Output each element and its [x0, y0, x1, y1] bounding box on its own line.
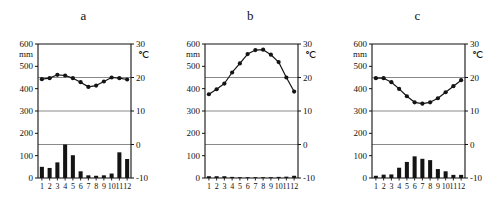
right-axis-unit: ℃ — [305, 50, 316, 60]
month-label: 12 — [457, 182, 465, 190]
plot-area-a: 6005004003002001000mm3020100-10℃12345678… — [0, 40, 167, 190]
precipitation-bar — [374, 176, 378, 178]
temperature-point — [292, 89, 296, 93]
month-label: 1 — [374, 182, 378, 190]
climograph-svg-b: 6005004003002001000mm3020100-10℃12345678… — [167, 40, 334, 190]
temperature-point — [436, 96, 440, 100]
precipitation-bar — [420, 159, 424, 178]
temperature-point — [230, 70, 234, 74]
left-tick-label: 200 — [354, 128, 368, 138]
month-label: 10 — [275, 182, 283, 190]
right-tick-label: 30 — [470, 40, 480, 49]
precipitation-bar — [292, 176, 296, 178]
month-label: 7 — [420, 182, 424, 190]
temperature-point — [459, 78, 463, 82]
left-tick-label: 200 — [20, 128, 34, 138]
climograph-svg-a: 6005004003002001000mm3020100-10℃12345678… — [0, 40, 167, 190]
climate-charts-figure: a6005004003002001000mm3020100-10℃1234567… — [0, 0, 501, 212]
temperature-point — [444, 90, 448, 94]
month-label: 4 — [230, 182, 234, 190]
temperature-point — [277, 60, 281, 64]
temperature-point — [253, 48, 257, 52]
precipitation-bar — [102, 175, 106, 178]
right-tick-label: -10 — [136, 173, 148, 183]
precipitation-bar — [207, 176, 211, 178]
left-tick-label: 0 — [29, 173, 34, 183]
precipitation-bar — [94, 176, 98, 178]
month-label: 11 — [116, 182, 124, 190]
month-label: 7 — [253, 182, 257, 190]
precipitation-bar — [436, 169, 440, 178]
month-label: 12 — [290, 182, 298, 190]
chart-panel-c: c6005004003002001000mm3020100-10℃1234567… — [334, 0, 501, 212]
month-label: 9 — [102, 182, 106, 190]
temperature-point — [269, 53, 273, 57]
month-label: 5 — [238, 182, 242, 190]
temperature-point — [246, 52, 250, 56]
left-axis-unit: mm — [19, 49, 33, 59]
month-label: 3 — [222, 182, 226, 190]
left-tick-label: 200 — [187, 128, 201, 138]
month-label: 3 — [55, 182, 59, 190]
precipitation-bar — [238, 177, 242, 178]
precipitation-bar — [261, 177, 265, 178]
chart-title-b: b — [167, 8, 334, 24]
chart-title-c: c — [334, 8, 501, 24]
plot-area-b: 6005004003002001000mm3020100-10℃12345678… — [167, 40, 334, 190]
temperature-point — [55, 73, 59, 77]
temperature-point — [413, 100, 417, 104]
temperature-point — [428, 100, 432, 104]
month-label: 2 — [382, 182, 386, 190]
month-label: 4 — [63, 182, 67, 190]
right-tick-label: -10 — [470, 173, 482, 183]
month-label: 2 — [215, 182, 219, 190]
right-tick-label: 20 — [303, 73, 313, 83]
month-label: 11 — [450, 182, 458, 190]
month-label: 2 — [48, 182, 52, 190]
left-tick-label: 500 — [354, 61, 368, 71]
month-label: 8 — [94, 182, 98, 190]
month-label: 5 — [405, 182, 409, 190]
climograph-svg-c: 6005004003002001000mm3020100-10℃12345678… — [334, 40, 501, 190]
precipitation-bar — [71, 155, 75, 178]
temperature-point — [397, 87, 401, 91]
precipitation-bar — [215, 176, 219, 178]
month-label: 7 — [86, 182, 90, 190]
month-label: 12 — [123, 182, 131, 190]
month-label: 1 — [40, 182, 44, 190]
right-axis-unit: ℃ — [472, 50, 483, 60]
precipitation-bar — [246, 177, 250, 178]
temperature-point — [215, 87, 219, 91]
precipitation-bar — [397, 168, 401, 178]
precipitation-bar — [40, 167, 44, 178]
precipitation-bar — [284, 177, 288, 178]
right-tick-label: 20 — [136, 73, 146, 83]
left-axis-unit: mm — [186, 49, 200, 59]
temperature-point — [117, 76, 121, 80]
left-tick-label: 500 — [20, 61, 34, 71]
left-tick-label: 300 — [187, 106, 201, 116]
precipitation-bar — [86, 175, 90, 178]
left-tick-label: 0 — [196, 173, 201, 183]
temperature-point — [102, 79, 106, 83]
right-axis-unit: ℃ — [138, 50, 149, 60]
right-tick-label: 0 — [303, 140, 308, 150]
precipitation-bar — [451, 175, 455, 178]
left-tick-label: 300 — [20, 106, 34, 116]
temperature-line — [376, 78, 461, 103]
precipitation-bar — [413, 156, 417, 178]
right-tick-label: 20 — [470, 73, 480, 83]
precipitation-bar — [48, 168, 52, 178]
month-label: 9 — [269, 182, 273, 190]
left-tick-label: 600 — [20, 40, 34, 49]
left-tick-label: 600 — [354, 40, 368, 49]
temperature-point — [207, 92, 211, 96]
month-label: 8 — [428, 182, 432, 190]
temperature-point — [382, 76, 386, 80]
month-label: 11 — [283, 182, 291, 190]
precipitation-bar — [405, 162, 409, 178]
right-tick-label: 0 — [470, 140, 475, 150]
temperature-point — [238, 61, 242, 65]
month-label: 8 — [261, 182, 265, 190]
temperature-point — [71, 76, 75, 80]
